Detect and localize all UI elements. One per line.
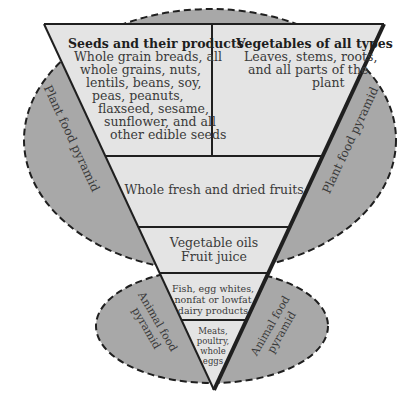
oils-line: Vegetable oils: [169, 235, 258, 250]
vegetables-line: and all parts of the: [248, 62, 368, 77]
fruits-label: Whole fresh and dried fruits: [124, 182, 303, 197]
vegetables-line: plant: [312, 75, 345, 90]
fish-dairy-line: nonfat or lowfat: [174, 294, 251, 305]
meats-line: whole: [200, 346, 226, 356]
seeds-line: other edible seeds: [110, 127, 226, 142]
fish-dairy-line: dairy products: [178, 305, 248, 316]
food-pyramid-diagram: Seeds and their products Whole grain bre…: [0, 0, 416, 414]
oils-line: Fruit juice: [181, 249, 247, 264]
fish-dairy-line: Fish, egg whites,: [172, 283, 254, 294]
meats-line: eggs: [203, 356, 223, 366]
meats-line: poultry,: [197, 336, 230, 346]
section-oils: Vegetable oils Fruit juice: [169, 235, 258, 264]
meats-line: Meats,: [198, 326, 227, 336]
section-fish-dairy: Fish, egg whites, nonfat or lowfat dairy…: [172, 283, 254, 316]
